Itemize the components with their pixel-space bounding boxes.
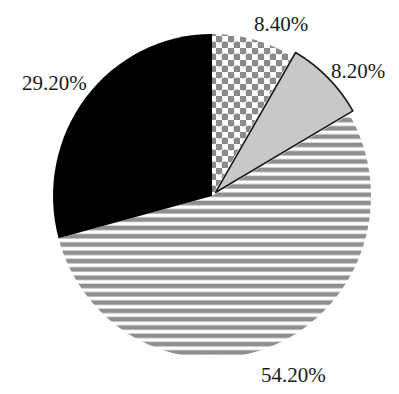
slice-label-checker: 8.40% xyxy=(254,12,308,36)
pie-chart: 8.40% 8.20% 54.20% 29.20% xyxy=(0,0,399,394)
slice-label-stripes: 54.20% xyxy=(261,363,326,387)
slice-label-gray: 8.20% xyxy=(331,59,385,83)
slice-label-black: 29.20% xyxy=(22,71,87,95)
